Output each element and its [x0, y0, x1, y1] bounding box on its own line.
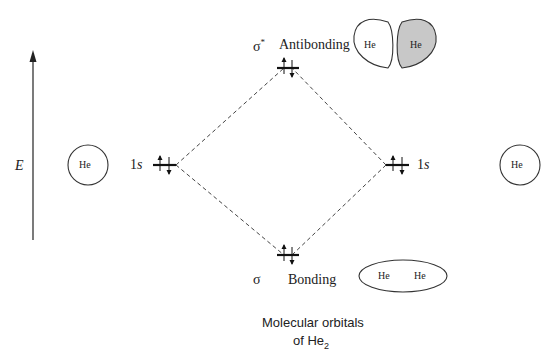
- left-1s-label: 1s: [130, 158, 142, 172]
- bonding-atom1-label: He: [378, 271, 390, 281]
- diagram-title-line1: Molecular orbitals: [262, 316, 364, 329]
- right-1s-label: 1s: [417, 158, 429, 172]
- left-1s-letter: s: [137, 157, 142, 172]
- diagram-title-line2: of He2: [293, 334, 329, 351]
- antibonding-lobe-right-label: He: [410, 40, 422, 50]
- right-1s-letter: s: [424, 157, 429, 172]
- energy-axis-arrow: [30, 50, 37, 240]
- right-1s-num: 1: [417, 157, 424, 172]
- sigma-symbol: σ: [253, 273, 261, 287]
- bonding-orbital-ellipse: [359, 260, 447, 292]
- sigma-level: [277, 244, 299, 265]
- antibonding-lobe-left-label: He: [364, 40, 376, 50]
- bonding-atom2-label: He: [414, 271, 426, 281]
- sigma-star-level: [277, 57, 299, 78]
- bonding-label: Bonding: [288, 273, 336, 287]
- right-1s-level: [386, 155, 409, 175]
- correlation-lines: [176, 68, 386, 255]
- left-atom-label: He: [79, 160, 91, 170]
- energy-axis-label: E: [15, 159, 24, 173]
- left-1s-num: 1: [130, 157, 137, 172]
- sigma-star-sigma: σ: [253, 39, 261, 54]
- title-subscript: 2: [324, 341, 329, 351]
- left-1s-level: [153, 155, 176, 175]
- right-atom-label: He: [511, 160, 523, 170]
- mo-diagram: E He 1s 1s He σ* Antibonding He He σ Bon…: [0, 0, 556, 357]
- title-prefix: of He: [293, 333, 324, 348]
- antibonding-label: Antibonding: [279, 38, 350, 52]
- sigma-star-symbol: σ*: [253, 38, 265, 54]
- diagram-graphics: [0, 0, 556, 357]
- sigma-star-asterisk: *: [261, 37, 266, 47]
